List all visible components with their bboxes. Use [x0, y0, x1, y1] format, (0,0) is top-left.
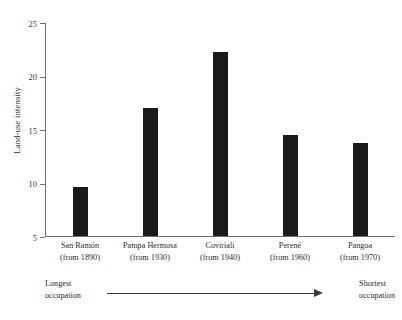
y-axis-tick-label: 15 [29, 126, 38, 136]
arrow-line [107, 293, 316, 294]
y-axis-tick: 25 [40, 23, 45, 24]
category-year: (from 1890) [60, 252, 100, 264]
x-axis-line [45, 236, 395, 237]
category-year: (from 1970) [340, 252, 380, 264]
category-year: (from 1960) [270, 252, 310, 264]
bar [283, 135, 298, 236]
x-axis-category-label: Pangoa(from 1970) [340, 240, 380, 263]
category-name: Coviriali [200, 240, 240, 252]
annotation-right-line2: occupation [359, 291, 395, 300]
bar [73, 187, 88, 236]
category-name: San Ramón [60, 240, 100, 252]
y-axis-tick: 15 [40, 130, 45, 131]
bar [143, 108, 158, 236]
y-axis-title: Land-use intensity [8, 0, 26, 240]
y-axis-tick-label: 20 [29, 72, 38, 82]
category-year: (from 1940) [200, 252, 240, 264]
x-axis-category-label: Perené(from 1960) [270, 240, 310, 263]
y-axis-tick: 20 [40, 77, 45, 78]
y-axis-title-text: Land-use intensity [12, 87, 22, 154]
y-axis-tick-label: 25 [29, 19, 38, 29]
y-axis-line [45, 23, 46, 237]
y-axis-tick-label: 5 [33, 233, 37, 243]
direction-arrow-icon [107, 289, 323, 298]
annotation-right-label: Shortest occupation [359, 278, 395, 301]
annotation-left-line2: occupation [45, 291, 81, 300]
bar-chart-figure: Land-use intensity 510152025 San Ramón(f… [0, 0, 402, 320]
category-name: Pampa Hermosa [123, 240, 177, 252]
bar [213, 52, 228, 236]
y-axis-tick: 5 [40, 237, 45, 238]
category-name: Pangoa [340, 240, 380, 252]
arrow-head [314, 289, 323, 297]
x-axis-category-label: San Ramón(from 1890) [60, 240, 100, 263]
x-axis-category-label: Coviriali(from 1940) [200, 240, 240, 263]
x-axis-category-label: Pampa Hermosa(from 1930) [123, 240, 177, 263]
annotation-left-line1: Longest [45, 279, 71, 288]
category-year: (from 1930) [123, 252, 177, 264]
y-axis-tick: 10 [40, 184, 45, 185]
y-axis-tick-label: 10 [29, 179, 38, 189]
bar [353, 143, 368, 236]
x-axis-category-labels: San Ramón(from 1890)Pampa Hermosa(from 1… [45, 240, 395, 270]
category-name: Perené [270, 240, 310, 252]
plot-area: 510152025 [45, 23, 395, 237]
annotation-left-label: Longest occupation [45, 278, 81, 301]
annotation-right-line1: Shortest [359, 279, 386, 288]
occupation-duration-annotation: Longest occupation Shortest occupation [45, 278, 395, 312]
